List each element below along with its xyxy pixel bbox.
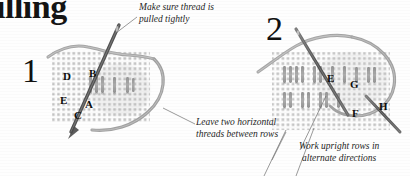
annotation-make-sure-thread: Make sure thread is pulled tightly bbox=[139, 2, 214, 25]
annotation-work-upright-rows: Work upright rows in alternate direction… bbox=[299, 141, 379, 164]
stitch-label-a: A bbox=[85, 99, 93, 110]
step-number-1: 1 bbox=[22, 54, 39, 88]
stitch-label-h: H bbox=[379, 101, 388, 112]
page-title: illing bbox=[0, 0, 67, 26]
stitch-label-g: G bbox=[350, 79, 359, 90]
stitch-label-f: F bbox=[352, 108, 359, 119]
stitch-label-c: C bbox=[74, 110, 82, 121]
leader-line-middle bbox=[163, 108, 195, 124]
annotation-leave-two-threads: Leave two horizontal threads between row… bbox=[196, 117, 278, 140]
stitch-label-d: D bbox=[63, 71, 71, 82]
stitch-label-b: B bbox=[89, 68, 96, 79]
stitch-label-e-2: E bbox=[327, 73, 334, 84]
diagram-canvas: illing 1 2 Make sure thread is pulled ti… bbox=[0, 0, 410, 176]
step-number-2: 2 bbox=[266, 12, 283, 46]
stitch-label-e-1: E bbox=[60, 95, 67, 106]
